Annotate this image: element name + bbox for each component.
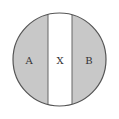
label-region-a: A [25,56,32,66]
diagram-canvas: A X B [0,0,119,119]
label-region-x: X [56,56,63,66]
label-region-b: B [85,56,92,66]
